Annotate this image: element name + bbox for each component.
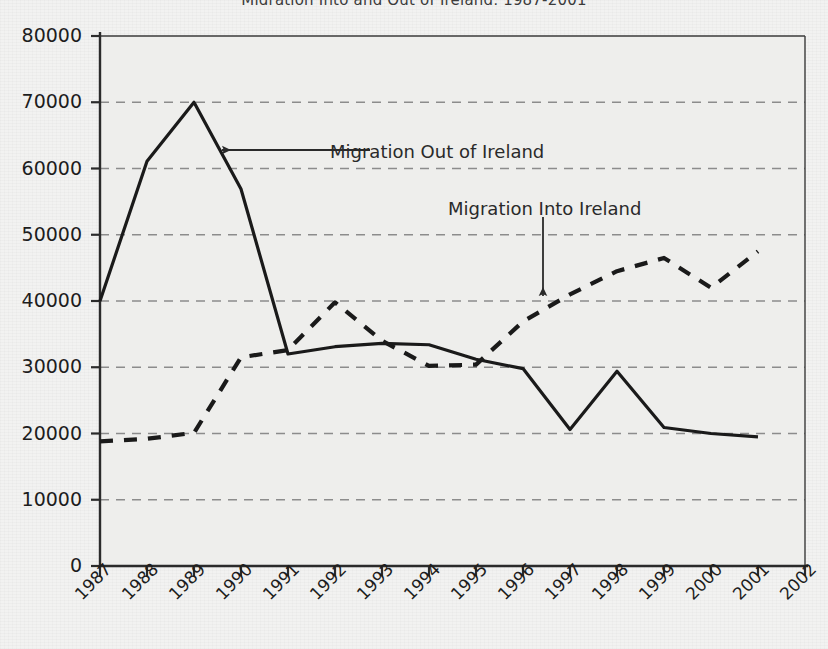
y-axis-tick-label: 10000: [22, 490, 82, 509]
y-axis-tick-label: 30000: [22, 357, 82, 376]
chart-figure: Migration Into and Out of Ireland, 1987-…: [0, 0, 828, 649]
y-axis-tick-label: 20000: [22, 424, 82, 443]
y-axis-tick-label: 70000: [22, 92, 82, 111]
y-axis-tick-label: 0: [70, 556, 82, 575]
y-axis-tick-label: 40000: [22, 291, 82, 310]
annotation-label-migration-out: Migration Out of Ireland: [330, 143, 544, 161]
y-axis-tick-label: 50000: [22, 225, 82, 244]
annotation-label-migration-into: Migration Into Ireland: [448, 200, 641, 218]
plot-area: [0, 0, 828, 649]
y-axis-tick-label: 60000: [22, 159, 82, 178]
y-axis-tick-label: 80000: [22, 26, 82, 45]
